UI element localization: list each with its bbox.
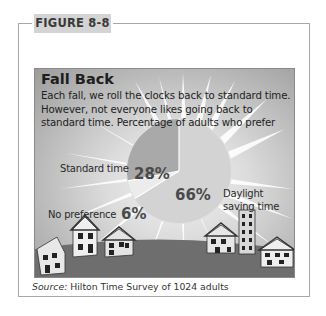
source-text: Hilton Time Survey of 1024 adults [67,281,228,292]
label-daylight-line2: saving time [223,201,279,214]
label-standard-time: Standard time [60,163,129,176]
label-daylight-line1: Daylight [223,188,279,201]
chart-title: Fall Back [41,71,114,87]
pct-daylight: 66% [175,186,211,204]
pct-no-preference: 6% [121,205,146,223]
pct-standard: 28% [134,165,170,183]
source-prefix: Source: [32,281,67,292]
chart-panel: Fall Back Each fall, we roll the clocks … [34,68,295,278]
figure-label: FIGURE 8-8 [34,14,111,33]
source-note: Source: Hilton Time Survey of 1024 adult… [32,281,229,292]
label-no-preference: No preference [48,209,116,222]
chart-description: Each fall, we roll the clocks back to st… [41,89,293,130]
label-daylight-saving: Daylight saving time [223,188,279,213]
